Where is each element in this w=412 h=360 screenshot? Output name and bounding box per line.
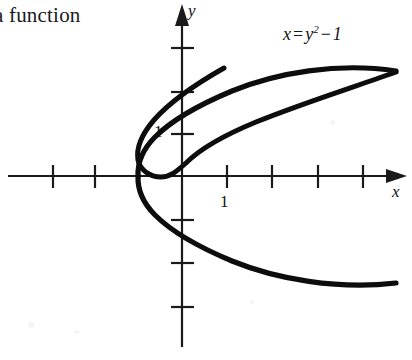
x-axis-arrowhead — [386, 169, 407, 183]
graph-figure: a function x=y2−1 y x 1 1 — [0, 0, 412, 360]
y-axis-arrowhead — [175, 4, 189, 26]
coordinate-plane-svg — [0, 0, 412, 360]
x-axis-group — [8, 169, 407, 183]
parabola-lower — [138, 176, 396, 285]
